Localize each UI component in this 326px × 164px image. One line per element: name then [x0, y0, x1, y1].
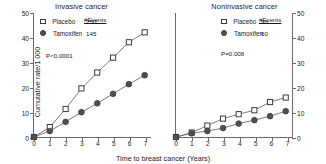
- y-tick-label: 50: [22, 10, 29, 17]
- data-point-tamoxifen: [236, 121, 242, 127]
- x-tick-label: 1: [190, 140, 194, 147]
- data-point-placebo: [126, 40, 131, 45]
- y-tick: [292, 13, 296, 14]
- legend-row-placebo: Placebo 93: [221, 17, 263, 29]
- x-tick-label: 3: [80, 140, 84, 147]
- y-tick-label: 20: [297, 85, 304, 92]
- x-tick-label: 6: [128, 140, 132, 147]
- legend-events-placebo: 250: [86, 18, 96, 25]
- x-tick-label: 4: [96, 140, 100, 147]
- x-tick-label: 5: [254, 140, 258, 147]
- data-point-tamoxifen: [189, 130, 195, 136]
- data-point-placebo: [267, 99, 272, 104]
- data-point-tamoxifen: [173, 134, 179, 140]
- legend-row-tamoxifen: Tamoxifen 60: [221, 29, 263, 41]
- legend-row-placebo: Placebo 250: [40, 17, 82, 29]
- x-tick-label: 7: [144, 140, 148, 147]
- legend-events-placebo: 93: [261, 18, 268, 25]
- data-point-tamoxifen: [47, 128, 53, 134]
- panel-invasive-cancer: Invasive cancer Cumulative rate/1 000 01…: [0, 0, 163, 164]
- data-point-tamoxifen: [63, 119, 69, 125]
- data-point-tamoxifen: [126, 81, 132, 87]
- legend-events-tamoxifen: 60: [261, 30, 268, 37]
- data-point-placebo: [142, 30, 147, 35]
- x-tick-label: 0: [32, 140, 36, 147]
- legend-invasive: #Events Placebo 250 Tamoxifen 145 P<0.00…: [40, 17, 82, 41]
- y-tick-label: 10: [297, 110, 304, 117]
- y-tick-label: 40: [22, 35, 29, 42]
- y-tick: [292, 88, 296, 89]
- legend-label-tamoxifen: Tamoxifen: [234, 30, 263, 37]
- x-tick-label: 0: [174, 140, 178, 147]
- y-tick: [292, 113, 296, 114]
- legend-label-tamoxifen: Tamoxifen: [53, 30, 82, 37]
- legend-noninvasive: #Events Placebo 93 Tamoxifen 60 P=0.008: [221, 17, 263, 41]
- y-tick-label: 40: [297, 35, 304, 42]
- data-point-placebo: [283, 95, 288, 100]
- data-point-placebo: [205, 123, 210, 128]
- open-square-icon: [221, 19, 227, 25]
- x-tick-label: 5: [112, 140, 116, 147]
- x-tick-label: 3: [222, 140, 226, 147]
- x-tick-label: 2: [206, 140, 210, 147]
- x-tick-label: 1: [48, 140, 52, 147]
- data-point-placebo: [220, 116, 225, 121]
- data-point-tamoxifen: [79, 109, 85, 115]
- data-point-tamoxifen: [110, 91, 116, 97]
- y-tick: [292, 63, 296, 64]
- filled-circle-icon: [40, 30, 46, 36]
- legend-label-placebo: Placebo: [52, 18, 75, 25]
- data-point-placebo: [110, 55, 115, 60]
- data-point-placebo: [79, 86, 84, 91]
- open-square-icon: [40, 19, 46, 25]
- filled-circle-icon: [221, 30, 227, 36]
- y-tick-label: 30: [297, 60, 304, 67]
- data-point-placebo: [252, 108, 257, 113]
- data-point-tamoxifen: [94, 100, 100, 106]
- legend-label-placebo: Placebo: [233, 18, 256, 25]
- x-tick-label: 2: [64, 140, 68, 147]
- x-tick-label: 6: [270, 140, 274, 147]
- p-value-text: P<0.0001: [46, 52, 73, 59]
- legend-row-tamoxifen: Tamoxifen 145: [40, 29, 82, 41]
- legend-events-tamoxifen: 145: [86, 30, 96, 37]
- p-value-text: P=0.008: [221, 50, 244, 57]
- y-tick-label: 20: [22, 85, 29, 92]
- data-point-tamoxifen: [31, 134, 37, 140]
- panel-noninvasive-cancer: Noninvasive cancer 0102030405001234567 #…: [163, 0, 326, 164]
- y-tick-label: 10: [22, 110, 29, 117]
- data-point-tamoxifen: [267, 113, 273, 119]
- data-point-tamoxifen: [142, 72, 148, 78]
- y-tick-label: 0: [25, 135, 29, 142]
- x-tick-label: 7: [286, 140, 290, 147]
- data-point-tamoxifen: [205, 128, 211, 134]
- data-point-placebo: [95, 70, 100, 75]
- x-axis-label: Time to breast cancer (Years): [0, 154, 326, 163]
- data-point-placebo: [236, 112, 241, 117]
- y-tick-label: 50: [297, 10, 304, 17]
- data-point-placebo: [63, 106, 68, 111]
- data-point-tamoxifen: [220, 125, 226, 131]
- y-tick: [292, 138, 296, 139]
- figure-two-panel-cumulative-incidence: Invasive cancer Cumulative rate/1 000 01…: [0, 0, 326, 164]
- data-point-tamoxifen: [252, 117, 258, 123]
- y-tick-label: 0: [297, 135, 301, 142]
- y-tick-label: 30: [22, 60, 29, 67]
- y-tick: [292, 38, 296, 39]
- data-point-tamoxifen: [283, 108, 289, 114]
- x-tick-label: 4: [238, 140, 242, 147]
